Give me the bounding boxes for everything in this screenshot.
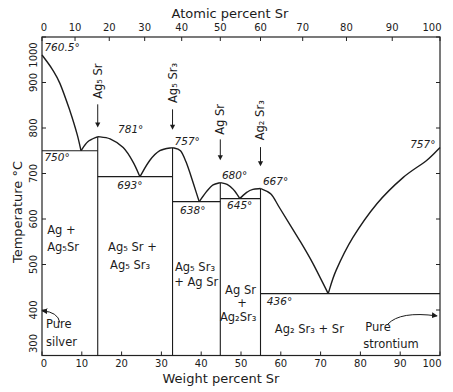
liquidus-curve xyxy=(42,55,81,151)
arrowhead-icon xyxy=(258,161,263,166)
x-top-tick-label: 60 xyxy=(254,22,267,33)
y-tick-label: 300 xyxy=(28,334,39,353)
compound-label: Ag Sr xyxy=(213,104,227,135)
arrowhead-icon xyxy=(95,123,100,128)
temperature-label: 781° xyxy=(118,123,143,135)
liquidus-curve xyxy=(140,148,173,177)
temperature-label: 750° xyxy=(44,151,69,163)
phase-region-label: Ag₂ Sr₃ + Sr xyxy=(275,322,344,336)
x-bottom-tick-label: 30 xyxy=(155,358,168,369)
x-bottom-tick-label: 0 xyxy=(41,358,47,369)
phase-region-label: Ag + xyxy=(47,223,75,237)
x-bottom-tick-label: 40 xyxy=(195,358,208,369)
temperature-label: 638° xyxy=(180,204,205,216)
phase-region-label: Ag Sr xyxy=(225,283,256,297)
phase-region-label: Pure xyxy=(365,320,391,334)
y-axis-title: Temperature °C xyxy=(10,161,25,264)
x-bottom-tick-label: 80 xyxy=(354,358,367,369)
temperature-label: 760.5° xyxy=(44,41,79,53)
temperature-label: 693° xyxy=(117,179,142,191)
liquidus-curve xyxy=(220,183,240,199)
arrowhead-icon xyxy=(218,155,223,160)
x-bottom-tick-label: 70 xyxy=(314,358,327,369)
x-top-tick-label: 100 xyxy=(422,22,441,33)
liquidus-curve xyxy=(240,189,261,199)
y-tick-label: 1000 xyxy=(28,42,39,67)
phase-region-labels: Ag +Ag₅SrAg₅ Sr +Ag₅ Sr₃Ag₅ Sr₃+ Ag SrAg… xyxy=(46,223,419,351)
x-top-tick-label: 50 xyxy=(214,22,227,33)
phase-diagram: Atomic percent Sr 0102030405060708090100… xyxy=(0,0,453,392)
x-bottom-tick-label: 20 xyxy=(115,358,128,369)
x-top-tick-label: 70 xyxy=(296,22,309,33)
y-tick-label: 800 xyxy=(28,118,39,137)
compound-label: Ag₅ Sr xyxy=(91,63,105,99)
liquidus-curve xyxy=(199,183,220,202)
x-top-tick-label: 10 xyxy=(69,22,82,33)
phase-region-label: silver xyxy=(46,335,77,349)
y-tick-label: 400 xyxy=(28,300,39,319)
phase-region-label: Ag₅ Sr₃ xyxy=(175,260,215,274)
phase-region-label: + xyxy=(237,296,247,310)
y-tick-label: 600 xyxy=(28,209,39,228)
temperature-label: 680° xyxy=(222,169,247,181)
temperature-label: 645° xyxy=(227,199,252,211)
x-top-tick-label: 20 xyxy=(103,22,116,33)
phase-region-label: Ag₅ Sr + xyxy=(108,240,157,254)
y-tick-label: 500 xyxy=(28,255,39,274)
x-top-tick-label: 30 xyxy=(138,22,151,33)
x-bottom-tick-label: 50 xyxy=(235,358,248,369)
temperature-label: 757° xyxy=(175,135,200,147)
y-tick-label: 900 xyxy=(28,73,39,92)
liquidus-curve xyxy=(81,137,98,151)
liquidus-curve xyxy=(261,189,329,294)
x-top-tick-label: 40 xyxy=(175,22,188,33)
temperature-label: 436° xyxy=(267,295,292,307)
compound-label: Ag₂ Sr₃ xyxy=(254,100,268,140)
x-bottom-tick-label: 100 xyxy=(422,358,441,369)
pure-strontium-arrow-icon xyxy=(388,315,437,325)
liquidus-curve xyxy=(328,148,440,294)
temperature-label: 757° xyxy=(410,138,435,150)
x-axis-top-title: Atomic percent Sr xyxy=(172,6,289,21)
x-top-tick-label: 80 xyxy=(340,22,353,33)
liquidus-curve xyxy=(98,137,140,177)
x-axis-bottom-title: Weight percent Sr xyxy=(163,371,281,386)
x-top-tick-label: 90 xyxy=(386,22,399,33)
x-bottom-tick-label: 90 xyxy=(394,358,407,369)
compound-label: Ag₅ Sr₃ xyxy=(166,63,180,103)
phase-region-label: Ag₂Sr₃ xyxy=(220,310,257,324)
x-top-tick-label: 0 xyxy=(41,22,47,33)
liquidus-curve xyxy=(173,148,200,202)
phase-region-label: strontium xyxy=(363,337,419,351)
temperature-label: 667° xyxy=(263,175,288,187)
phase-region-label: Ag₅ Sr₃ xyxy=(110,258,150,272)
phase-region-label: Ag₅Sr xyxy=(47,240,79,254)
arrowhead-icon xyxy=(170,125,175,130)
y-tick-label: 700 xyxy=(28,164,39,183)
x-bottom-tick-label: 10 xyxy=(75,358,88,369)
phase-region-label: + Ag Sr xyxy=(174,275,218,289)
x-bottom-tick-label: 60 xyxy=(274,358,287,369)
